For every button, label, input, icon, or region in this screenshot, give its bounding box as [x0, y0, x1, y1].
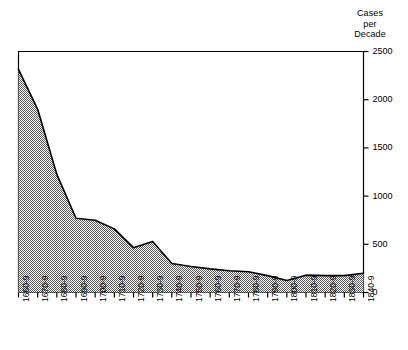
- x-axis-tick-label: 1710-9: [118, 275, 127, 301]
- x-axis-tick-label: 1770-9: [233, 275, 242, 301]
- x-axis-tick-label: 1680-9: [60, 275, 69, 301]
- x-axis-tick-label: 1750-9: [195, 275, 204, 301]
- x-axis-tick-label: 1790-9: [271, 275, 280, 301]
- y-axis-ticks: [364, 52, 369, 293]
- y-axis-tick-label: 1500: [373, 143, 393, 152]
- y-axis-tick-label: 1000: [373, 192, 393, 201]
- x-axis-tick-label: 1670-9: [41, 275, 50, 301]
- area-series-fill: [19, 69, 364, 292]
- x-axis-tick-label: 1800-9: [290, 275, 299, 301]
- x-axis-tick-label: 1780-9: [252, 275, 261, 301]
- y-axis-tick-label: 2000: [373, 95, 393, 104]
- x-axis-tick-label: 1830-9: [348, 275, 357, 301]
- x-axis-tick-label: 1760-9: [214, 275, 223, 301]
- x-axis-tick-label: 1740-9: [175, 275, 184, 301]
- x-axis-tick-label: 1820-9: [329, 275, 338, 301]
- x-axis-tick-label: 1700-9: [99, 275, 108, 301]
- x-axis-tick-label: 1720-9: [137, 275, 146, 301]
- x-axis-tick-label: 1810-9: [310, 275, 319, 301]
- chart-container: Cases per Decade 05001000150020002500 16…: [0, 0, 408, 350]
- y-axis-tick-label: 500: [373, 240, 388, 249]
- y-axis-tick-label: 2500: [373, 47, 393, 56]
- x-axis-tick-label: 1840-9: [367, 275, 376, 301]
- x-axis-tick-label: 1690-9: [80, 275, 89, 301]
- x-axis-tick-label: 1730-9: [156, 275, 165, 301]
- x-axis-tick-label: 1660-9: [22, 275, 31, 301]
